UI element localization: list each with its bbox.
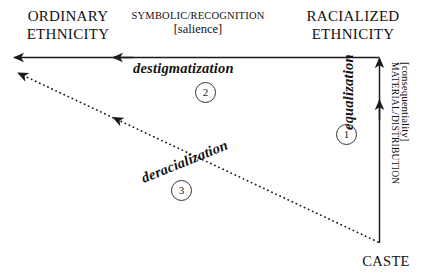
diagram-canvas: ORDINARY ETHNICITY SYMBOLIC/RECOGNITION … bbox=[0, 0, 431, 280]
axis-label-consequentiality: [consequentiality] bbox=[400, 62, 412, 141]
process-marker-1: 1 bbox=[336, 124, 357, 145]
process-label-destigmatization: destigmatization bbox=[133, 60, 234, 77]
process-marker-3: 3 bbox=[171, 180, 192, 201]
axis-label-material-distribution: MATERIAL/DISTRIBUTION bbox=[390, 62, 400, 184]
process-label-equalization: equalization bbox=[340, 54, 357, 130]
process-marker-2: 2 bbox=[195, 82, 216, 103]
origin-label-caste: CASTE bbox=[352, 253, 420, 270]
